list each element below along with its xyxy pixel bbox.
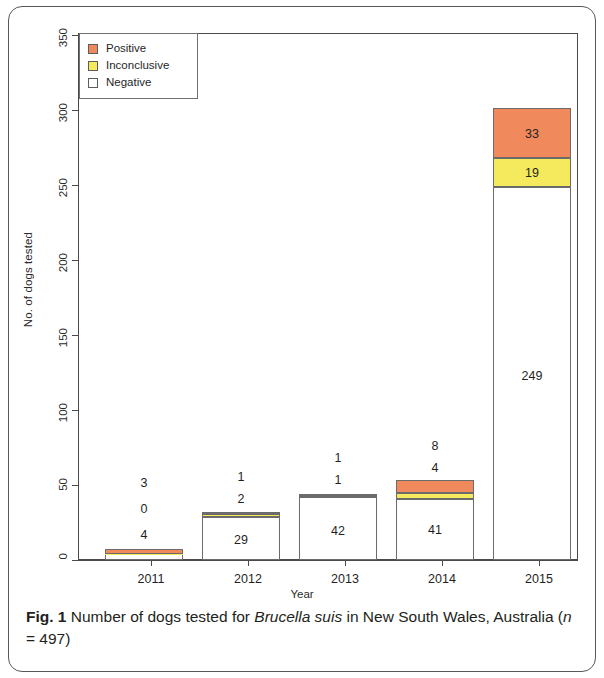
bar-label-negative-2014: 41 (396, 524, 474, 537)
y-tick-label-100: 100 (58, 403, 70, 422)
x-tick-2014 (442, 560, 443, 566)
y-tick-label-250: 250 (58, 178, 70, 197)
y-tick-300 (72, 110, 78, 111)
y-tick-label-350: 350 (58, 28, 70, 47)
y-tick-label-150-wrap: 150 (68, 335, 69, 336)
bar-label-inconclusive-2014: 4 (396, 462, 474, 475)
y-tick-100 (72, 410, 78, 411)
chart-legend: Positive Inconclusive Negative (79, 33, 198, 99)
y-tick-label-200-wrap: 200 (68, 260, 69, 261)
y-tick-label-350-wrap: 350 (68, 35, 69, 36)
bar-label-positive-2015: 33 (493, 128, 571, 141)
bar-segment-inconclusive-2012 (202, 514, 280, 517)
x-tick-2011 (151, 560, 152, 566)
bar-label-inconclusive-2013: 1 (299, 474, 377, 487)
bar-label-inconclusive-2012: 2 (202, 493, 280, 506)
x-axis-line: 2011 2012 2013 2014 2015 (78, 560, 578, 561)
bar-label-inconclusive-2011: 0 (105, 503, 183, 516)
legend-item-inconclusive: Inconclusive (88, 57, 197, 74)
legend-label-negative: Negative (106, 77, 151, 89)
bar-label-positive-2013: 1 (299, 452, 377, 465)
figure-caption: Fig. 1 Number of dogs tested for Brucell… (26, 606, 578, 650)
bar-label-negative-2015: 249 (493, 370, 571, 383)
caption-text-part2: in New South Wales, Australia ( (342, 608, 563, 625)
caption-text-part1: Number of dogs tested for (66, 608, 254, 625)
y-tick-250 (72, 185, 78, 186)
x-tick-2013 (345, 560, 346, 566)
bar-label-positive-2011: 3 (105, 477, 183, 490)
y-tick-label-50: 50 (58, 478, 70, 491)
y-tick-label-300: 300 (58, 103, 70, 122)
legend-label-inconclusive: Inconclusive (106, 60, 169, 72)
bar-segment-positive-2011 (105, 549, 183, 554)
chart-plot-area: 0 50 100 150 200 250 300 350 No. of dogs… (0, 0, 604, 600)
bar-segment-inconclusive-2014 (396, 493, 474, 499)
bar-label-negative-2012: 29 (202, 534, 280, 547)
caption-species-name: Brucella suis (254, 608, 342, 625)
bar-segment-positive-2012 (202, 512, 280, 514)
x-axis-title: Year (0, 588, 604, 600)
y-tick-label-200: 200 (58, 253, 70, 272)
y-tick-150 (72, 335, 78, 336)
y-tick-label-0-wrap: 0 (68, 560, 69, 561)
bar-label-inconclusive-2015: 19 (493, 167, 571, 180)
x-tick-2015 (539, 560, 540, 566)
legend-label-positive: Positive (106, 43, 146, 55)
y-tick-label-150: 150 (58, 328, 70, 347)
y-axis-title: No. of dogs tested (22, 232, 34, 327)
figure-number: Fig. 1 (26, 608, 66, 625)
x-tick-label-2015: 2015 (525, 572, 553, 586)
bar-segment-negative-2011 (105, 554, 183, 560)
y-tick-200 (72, 260, 78, 261)
legend-swatch-negative-icon (88, 78, 98, 88)
bar-group-2011 (105, 549, 183, 560)
caption-text-part3: = 497) (26, 630, 70, 647)
y-tick-label-50-wrap: 50 (68, 485, 69, 486)
x-tick-label-2014: 2014 (428, 572, 456, 586)
legend-item-positive: Positive (88, 40, 197, 57)
bar-label-positive-2012: 1 (202, 471, 280, 484)
bar-label-positive-2014: 8 (396, 440, 474, 453)
bar-label-negative-2011: 4 (105, 529, 183, 542)
x-tick-2012 (248, 560, 249, 566)
y-tick-label-100-wrap: 100 (68, 410, 69, 411)
y-tick-50 (72, 485, 78, 486)
bar-segment-positive-2013 (299, 494, 377, 496)
x-tick-label-2011: 2011 (138, 572, 165, 586)
legend-swatch-inconclusive-icon (88, 61, 98, 71)
caption-n-symbol: n (563, 608, 572, 625)
legend-swatch-positive-icon (88, 44, 98, 54)
legend-item-negative: Negative (88, 74, 197, 91)
x-tick-label-2012: 2012 (234, 572, 262, 586)
y-tick-350 (72, 35, 78, 36)
y-tick-label-250-wrap: 250 (68, 185, 69, 186)
bar-group-2014 (396, 480, 474, 560)
x-tick-label-2013: 2013 (331, 572, 359, 586)
y-tick-label-0: 0 (58, 553, 70, 559)
y-axis-line: 0 50 100 150 200 250 300 350 (78, 35, 79, 560)
y-tick-label-300-wrap: 300 (68, 110, 69, 111)
bar-label-negative-2013: 42 (299, 525, 377, 538)
bar-segment-positive-2014 (396, 480, 474, 493)
